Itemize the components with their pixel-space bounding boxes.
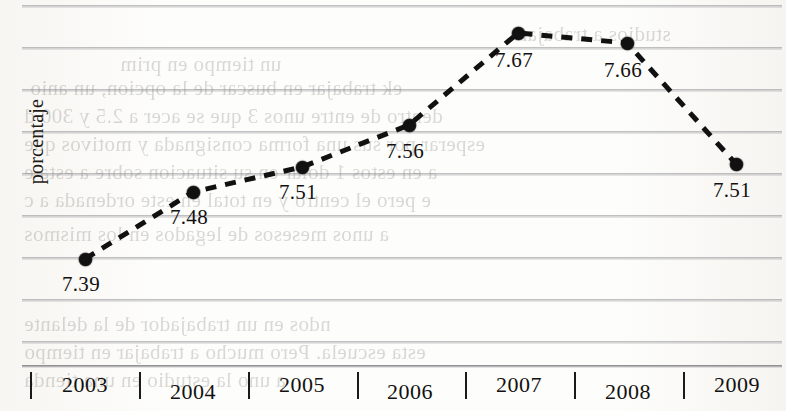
page-showthrough-text: studios a trabajarun tiempo en primek tr…: [0, 0, 786, 411]
gridline: [22, 299, 782, 301]
x-axis-label-2003: 2003: [62, 372, 108, 398]
y-axis-title: porcentaje: [25, 72, 48, 212]
gridline: [22, 47, 782, 49]
x-axis-line: [22, 365, 782, 367]
x-axis-tick: [30, 372, 32, 399]
data-point-marker: [296, 161, 309, 174]
showthrough-line: e pero el centro y en total en este orde…: [24, 188, 431, 213]
x-axis-tick: [357, 372, 359, 399]
data-point-value: 7.51: [713, 178, 751, 203]
x-axis-label-2007: 2007: [496, 372, 542, 398]
data-point-marker: [403, 119, 416, 132]
x-axis-tick: [574, 372, 576, 399]
showthrough-line: esta escuela. Pero mucho a trabajar en t…: [24, 340, 426, 365]
x-axis-label-2005: 2005: [279, 372, 325, 398]
x-axis-label-2008: 2008: [605, 379, 651, 405]
x-axis-label-2006: 2006: [387, 379, 433, 405]
data-point-value: 7.39: [62, 272, 100, 297]
showthrough-line: un tiempo en prim: [120, 52, 281, 77]
showthrough-line: a unos mesesos de legados en los mismos: [24, 222, 389, 247]
data-point-marker: [187, 186, 200, 199]
showthrough-line: ndos en un trabajador de la delante: [24, 312, 331, 337]
x-axis-tick: [139, 372, 141, 399]
line-series-path: [85, 33, 736, 259]
data-point-marker: [730, 158, 743, 171]
showthrough-line: esperar por sus una forma consignada y m…: [24, 132, 485, 157]
data-point-value: 7.51: [279, 180, 317, 205]
gridline: [22, 341, 782, 343]
data-point-value: 7.48: [170, 205, 208, 230]
gridline: [22, 257, 782, 259]
gridline: [22, 5, 782, 7]
gridline: [22, 131, 782, 133]
gridline: [22, 215, 782, 217]
x-axis-tick: [248, 372, 250, 399]
x-axis-label-2009: 2009: [714, 372, 760, 398]
gridline: [22, 89, 782, 91]
x-axis-tick: [683, 372, 685, 399]
data-point-marker: [79, 253, 92, 266]
x-axis-label-2004: 2004: [170, 379, 216, 405]
chart-page: studios a trabajarun tiempo en primek tr…: [0, 0, 786, 411]
data-point-value: 7.67: [495, 48, 533, 73]
line-series-svg: [0, 0, 786, 411]
data-point-marker: [512, 27, 525, 40]
showthrough-line: studios a trabajar: [520, 22, 671, 47]
paper-texture: [0, 0, 786, 411]
x-axis-tick: [465, 372, 467, 399]
data-point-value: 7.56: [386, 139, 424, 164]
gridline: [22, 173, 782, 175]
data-point-value: 7.66: [604, 58, 642, 83]
plot-area: 7.397.487.517.567.677.667.51 porcentaje: [0, 0, 786, 411]
showthrough-line: dentro de entre unos 3 que se acer a 2.5…: [24, 104, 443, 129]
